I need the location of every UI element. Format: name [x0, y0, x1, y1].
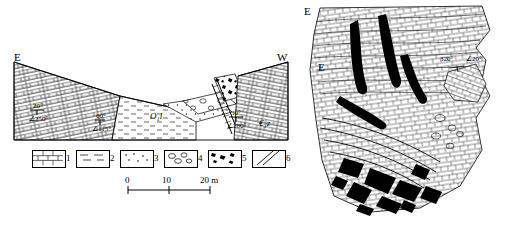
- dip-label-1-strike: ∠250°: [29, 116, 48, 123]
- legend-number-3: 3: [154, 153, 159, 163]
- direction-label-west: W: [277, 52, 287, 63]
- dip-label-3-angle: 30°: [231, 110, 241, 117]
- scale-tick-0: 0: [125, 176, 130, 185]
- geological-cross-section-panel: E W O₁l €₃z 20° ∠250° 60° ∠115° 30° ∠280…: [0, 0, 300, 229]
- legend-swatch-2: [76, 150, 110, 168]
- legend-swatch-5: [208, 150, 242, 168]
- legend-number-5: 5: [242, 153, 247, 163]
- figure-root: E W O₁l €₃z 20° ∠250° 60° ∠115° 30° ∠280…: [0, 0, 510, 229]
- legend-number-6: 6: [286, 153, 291, 163]
- legend-swatch-3: [120, 150, 154, 168]
- sketch-direction-label-top: E: [304, 6, 311, 17]
- outcrop-sketch-drawing: [300, 0, 510, 229]
- dip-label-2-strike: ∠115°: [92, 126, 111, 133]
- dip-label-3-strike: ∠280°: [227, 123, 246, 130]
- legend-swatch-1: [32, 150, 66, 168]
- sketch-direction-label-left: E: [318, 62, 325, 73]
- unit-label-e3z: €₃z: [259, 119, 270, 128]
- sketch-dip-label-strike: ∠20°: [466, 56, 482, 63]
- legend-number-1: 1: [66, 153, 71, 163]
- outcrop-sketch-panel: E E 320° ∠20°: [300, 0, 510, 229]
- sketch-dip-label-angle: 320°: [440, 56, 453, 63]
- legend-swatch-4: [164, 150, 198, 168]
- unit-label-o1l: O₁l: [150, 112, 162, 121]
- legend-number-4: 4: [198, 153, 203, 163]
- dip-label-1-angle: 20°: [33, 103, 43, 110]
- scale-tick-20m: 20 m: [200, 176, 218, 185]
- legend-number-2: 2: [110, 153, 115, 163]
- direction-label-east: E: [14, 52, 21, 63]
- scale-tick-10: 10: [162, 176, 171, 185]
- legend-swatch-6: [252, 150, 286, 168]
- scale-bar-graphic: [128, 186, 210, 194]
- dip-label-2-angle: 60°: [96, 113, 106, 120]
